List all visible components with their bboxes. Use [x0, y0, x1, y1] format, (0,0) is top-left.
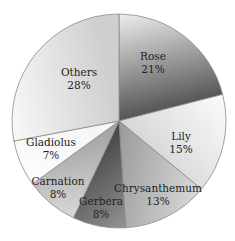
pie-chart: Rose21%Lily15%Chrysanthemum13%Gerbera8%C…: [0, 0, 235, 241]
slice-label-lily: Lily15%: [169, 130, 192, 155]
slice-label-rose: Rose21%: [140, 50, 166, 75]
